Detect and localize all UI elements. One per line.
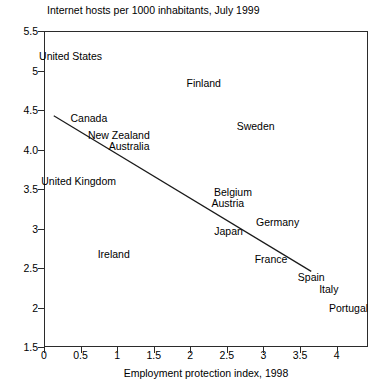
data-point-label: France [255, 253, 288, 264]
x-axis-tick-mark [154, 347, 155, 353]
data-point-label: Italy [319, 283, 338, 294]
x-axis-tick-mark [117, 347, 118, 353]
y-axis-tick-label: 2 [0, 302, 38, 313]
x-axis-tick-mark [263, 347, 264, 353]
data-point-label: Spain [298, 271, 325, 282]
x-axis-label: Employment protection index, 1998 [44, 367, 368, 379]
y-axis-tick-label: 2.5 [0, 263, 38, 274]
data-point-label: Finland [186, 78, 220, 89]
x-axis-tick-mark [81, 347, 82, 353]
chart-title: Internet hosts per 1000 inhabitants, Jul… [47, 4, 259, 16]
data-point-label: Sweden [237, 121, 275, 132]
x-axis-tick-mark [227, 347, 228, 353]
chart-container: Internet hosts per 1000 inhabitants, Jul… [0, 0, 383, 392]
data-point-label: United States [39, 50, 102, 61]
y-axis-tick-label: 3.5 [0, 184, 38, 195]
y-axis-tick-label: 4.5 [0, 105, 38, 116]
plot-area: United StatesFinlandCanadaSwedenNew Zeal… [44, 31, 368, 347]
x-axis-tick-mark [44, 347, 45, 353]
y-axis-tick-label: 5 [0, 65, 38, 76]
data-point-label: Austria [212, 197, 245, 208]
x-axis-tick-mark [300, 347, 301, 353]
data-point-label: United Kingdom [41, 175, 116, 186]
y-axis-tick-label: 4.0 [0, 144, 38, 155]
x-axis-tick-mark [337, 347, 338, 353]
data-point-label: Portugal [329, 302, 368, 313]
data-point-label: Canada [70, 113, 107, 124]
data-point-label: Japan [214, 226, 243, 237]
y-axis-tick-label: 3 [0, 223, 38, 234]
y-axis-tick-label: 5.5 [0, 26, 38, 37]
x-axis-tick-mark [190, 347, 191, 353]
data-point-label: Ireland [98, 248, 130, 259]
data-point-label: Germany [256, 217, 299, 228]
data-point-label: Australia [109, 140, 150, 151]
